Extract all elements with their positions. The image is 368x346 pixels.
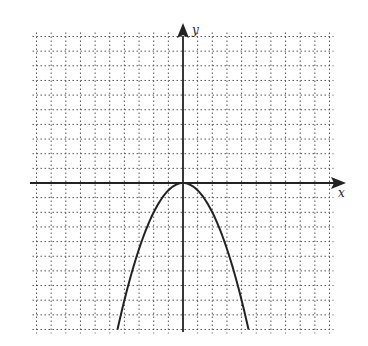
- y-axis-arrow-icon: [177, 23, 189, 38]
- coordinate-plane: x y: [0, 0, 368, 346]
- x-axis-label: x: [338, 186, 345, 200]
- y-axis-label: y: [191, 23, 199, 37]
